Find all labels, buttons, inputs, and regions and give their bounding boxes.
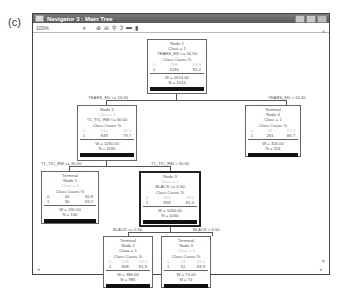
window-title: Navigator 3 : Main Tree (47, 16, 113, 22)
edge-label: T1_TIC_RM <= 30.00 (41, 161, 82, 166)
maximize-button[interactable] (306, 15, 316, 23)
tree-node-1[interactable]: Node 1 Class = 1 YEARS_ED <= 16.50 Class… (147, 39, 207, 94)
scroll-down-arrow[interactable]: ▼ (321, 258, 326, 264)
scroll-left-arrow[interactable]: ◂ (37, 266, 40, 272)
title-bar[interactable]: Navigator 3 : Main Tree (33, 14, 329, 23)
toolbar: 100% ▾ ⊕ ⊖ ⚲ ⚳ ▬ ▮ (33, 23, 329, 33)
node-bar (150, 87, 204, 91)
panel-icon[interactable]: ▮ (135, 24, 138, 31)
edge-label: BLACK <= 0.50 (113, 227, 142, 232)
edge-label: BLACK > 0.50 (193, 227, 220, 232)
tree-icon[interactable]: ⚲ (112, 24, 116, 31)
tree-canvas: Node 1 Class = 1 YEARS_ED <= 16.50 Class… (33, 33, 329, 274)
app-icon (35, 15, 44, 22)
edge-label: T1_TIC_RM > 30.00 (151, 161, 189, 166)
node-split: YEARS_ED <= 16.50 (150, 51, 204, 56)
tree-node-2[interactable]: Node 2 Class = 1 T1_TIC_RM <= 30.00 Clas… (77, 105, 137, 161)
tree-alt-icon[interactable]: ⚳ (119, 24, 123, 31)
zoom-select[interactable]: 100% ▾ (33, 25, 86, 31)
chevron-down-icon: ▾ (83, 25, 86, 31)
minimize-button[interactable] (295, 15, 305, 23)
tree-node-4-terminal[interactable]: Terminal Node 4 Class = 1 Class Cases % … (245, 105, 301, 157)
close-button[interactable] (317, 15, 327, 23)
navigator-window: Navigator 3 : Main Tree 100% ▾ ⊕ ⊖ ⚲ ⚳ ▬… (32, 13, 330, 275)
tree-node-2-terminal[interactable]: Terminal Node 2 Class = 1 Class Cases % … (103, 236, 153, 288)
zoom-in-icon[interactable]: ⊕ (96, 24, 101, 31)
edge-label: YEARS_ED <= 16.50 (88, 95, 128, 100)
edge-label: YEARS_ED > 16.50 (268, 95, 306, 100)
tree-node-1-terminal[interactable]: Terminal Node 1 Class = 0 Class Cases % … (41, 171, 99, 224)
minus-icon[interactable]: ▬ (126, 24, 132, 31)
panel-label: (c) (8, 16, 21, 28)
tree-node-3[interactable]: Node 3 Class = 1 BLACK <= 0.50 Class Cas… (139, 171, 201, 227)
scroll-right-arrow[interactable]: ▸ (320, 266, 323, 272)
tree-node-3-terminal[interactable]: Terminal Node 3 Class = 0 Class Cases % … (161, 236, 211, 288)
node-count: N = 1514 (150, 80, 204, 85)
zoom-value: 100% (36, 25, 49, 31)
zoom-out-icon[interactable]: ⊖ (104, 24, 109, 31)
